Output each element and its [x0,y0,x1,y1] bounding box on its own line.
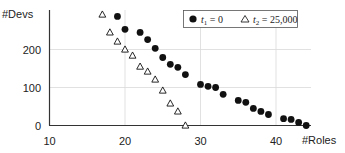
data-series [99,11,310,129]
circle-point [144,36,151,43]
triangle-point [174,108,181,114]
y-tick-label: 0 [35,120,41,132]
y-tick-label: 100 [23,82,41,94]
triangle-point [114,38,121,44]
circle-point [197,81,204,88]
circle-point [220,91,227,98]
circle-point [242,99,249,106]
triangle-point [152,76,159,82]
x-tick-label: 40 [270,135,282,147]
circle-point [152,45,159,52]
series-t1 [114,13,310,129]
circle-point [212,84,219,91]
x-tick-label: 10 [43,135,55,147]
legend: t1 = 0 t2 = 25,000 [184,11,298,28]
circle-point [258,108,265,115]
tick-labels: 102030400100200 [23,44,282,148]
triangle-point [122,46,129,52]
circle-point [288,116,295,123]
triangle-point [99,11,106,17]
triangle-point [129,52,136,58]
y-axis-title: #Devs [2,8,34,20]
triangle-point [167,100,174,106]
circle-point [280,115,287,122]
circle-point [159,54,166,61]
filled-circle-marker-icon [189,15,196,22]
circle-point [182,71,189,78]
circle-point [122,26,129,33]
circle-point [295,119,302,126]
triangle-point [144,68,151,74]
circle-point [114,13,121,20]
circle-point [265,111,272,118]
circle-point [303,122,310,129]
x-tick-label: 30 [194,135,206,147]
scatter-chart: 102030400100200 #Devs #Roles t1 = 0 t2 =… [0,0,345,153]
circle-point [167,61,174,68]
triangle-point [137,63,144,69]
y-tick-label: 200 [23,44,41,56]
x-tick-label: 20 [119,135,131,147]
circle-point [250,105,257,112]
circle-point [205,83,212,90]
x-axis-title: #Roles [302,134,337,146]
circle-point [174,64,181,71]
circle-point [137,29,144,36]
circle-point [235,97,242,104]
triangle-point [107,29,114,35]
